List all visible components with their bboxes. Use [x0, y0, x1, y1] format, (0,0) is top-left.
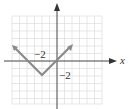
y-axis: [54, 3, 60, 109]
x-axis-arrow-icon: [109, 58, 117, 64]
y-tick-label: −2: [59, 69, 71, 81]
x-tick-label: −2: [34, 48, 46, 60]
x-axis: [4, 58, 117, 64]
y-axis-arrow-icon: [54, 3, 60, 11]
graph: −2 −2 x: [0, 0, 129, 109]
x-axis-label: x: [119, 54, 125, 66]
